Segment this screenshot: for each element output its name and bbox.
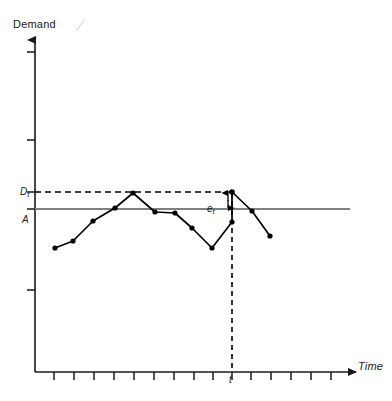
data-point	[189, 225, 194, 230]
y-axis-title: Demand	[13, 18, 56, 30]
data-point	[130, 190, 135, 195]
error-symbol: e	[207, 203, 213, 214]
error-label: et	[207, 203, 215, 214]
y-axis-group	[27, 40, 35, 372]
x-axis-group	[35, 372, 356, 380]
data-point	[209, 245, 214, 250]
data-point	[70, 238, 75, 243]
demand-at-t-label: Dt	[20, 186, 29, 197]
x-axis-ticks	[54, 372, 331, 380]
data-point	[267, 233, 272, 238]
data-point	[52, 245, 57, 250]
data-point	[172, 210, 177, 215]
data-point-at-t	[229, 189, 235, 195]
scan-artifact	[74, 19, 88, 33]
error-subscript: t	[213, 207, 215, 216]
demand-forecast-chart: Demand Time Dt A et t	[0, 0, 392, 401]
data-point	[152, 209, 157, 214]
data-point	[249, 208, 254, 213]
x-axis-title: Time	[358, 360, 383, 372]
chart-canvas	[0, 0, 392, 401]
y-axis-ticks	[27, 52, 35, 290]
data-point	[90, 218, 95, 223]
average-label: A	[22, 214, 29, 225]
time-index-label: t	[229, 374, 232, 385]
data-point	[112, 205, 117, 210]
demand-series-line	[55, 192, 270, 248]
data-point	[229, 219, 234, 224]
